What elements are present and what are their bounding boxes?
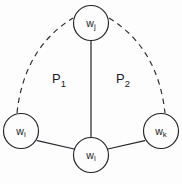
region-label-p2: P2 — [116, 71, 130, 88]
dashed-arc-w-i-to-w-j — [17, 18, 73, 113]
edge-w-l-to-w-k — [108, 141, 145, 149]
dashed-arc-w-j-to-w-k — [109, 18, 165, 113]
diagram-canvas: wj wi wl wk P1 P2 — [0, 0, 182, 184]
region-label-p1: P1 — [52, 71, 66, 88]
edge-w-i-to-w-l — [37, 141, 74, 149]
graph-diagram: wj wi wl wk P1 P2 — [0, 0, 182, 184]
